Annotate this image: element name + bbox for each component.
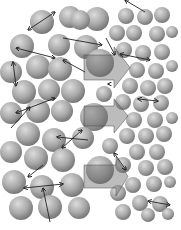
small-particle	[147, 112, 163, 128]
large-particle	[61, 79, 85, 103]
small-particle	[138, 160, 154, 176]
large-particle	[48, 57, 72, 81]
small-particle	[141, 208, 155, 222]
large-particle	[16, 122, 40, 146]
large-particle	[51, 148, 75, 172]
flux-arrow-layer	[84, 47, 130, 196]
large-particle	[38, 195, 62, 219]
small-particle	[122, 78, 138, 94]
small-particle	[164, 176, 176, 188]
small-particle	[149, 26, 165, 42]
large-particle	[0, 141, 22, 163]
large-particle	[0, 61, 22, 83]
small-particle	[140, 80, 156, 96]
small-particle	[125, 177, 141, 193]
small-particle	[162, 208, 174, 220]
small-particle	[166, 112, 178, 124]
large-particle	[68, 197, 90, 219]
small-particle	[137, 9, 153, 25]
small-particle	[157, 78, 173, 94]
large-particle	[38, 79, 60, 101]
small-particle	[129, 62, 145, 78]
small-particle	[154, 44, 170, 60]
small-particle	[146, 176, 162, 192]
small-particle	[126, 112, 142, 128]
small-particle	[118, 8, 134, 24]
small-particle	[149, 144, 165, 160]
small-particle	[96, 86, 112, 102]
small-particle	[115, 204, 131, 220]
small-particle	[138, 128, 154, 144]
small-particle	[156, 126, 172, 142]
small-particle	[148, 63, 164, 79]
large-particle	[24, 146, 48, 170]
large-particle	[2, 170, 26, 194]
small-particle	[129, 144, 145, 160]
small-particle	[109, 25, 125, 41]
particle-diffusion-figure	[0, 0, 181, 230]
large-particle	[0, 102, 22, 124]
large-particle	[51, 100, 73, 122]
large-particle	[72, 127, 94, 149]
small-particle	[153, 95, 169, 111]
small-particle	[157, 159, 173, 175]
large-particle	[26, 55, 50, 79]
large-particle	[30, 10, 54, 34]
large-particle	[60, 173, 84, 197]
large-particle	[70, 10, 90, 30]
large-particle	[48, 34, 70, 56]
small-particle	[166, 60, 178, 72]
small-particle	[133, 96, 149, 112]
small-particle	[166, 26, 178, 38]
large-particle	[9, 196, 33, 220]
small-particle	[126, 25, 142, 41]
large-particle	[10, 34, 34, 58]
small-particle	[102, 138, 118, 154]
large-particle	[26, 99, 50, 123]
small-particle	[154, 7, 170, 23]
small-particle	[119, 128, 135, 144]
